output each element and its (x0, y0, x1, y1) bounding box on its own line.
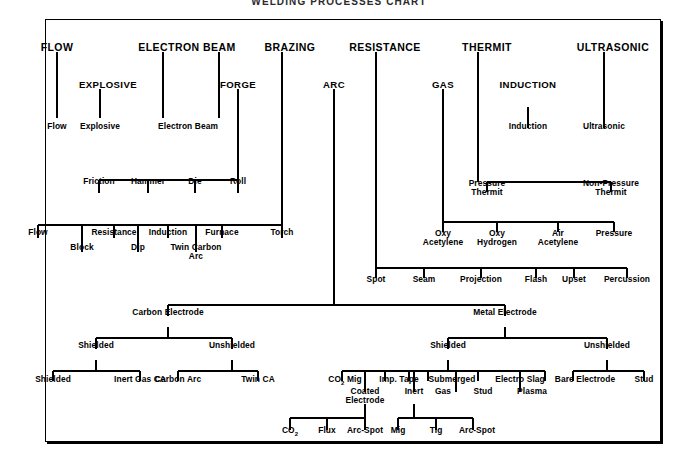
node-arc-spot-right: Arc-Spot (459, 426, 495, 435)
node-oxy-hydrogen: Oxy Hydrogen (477, 229, 517, 248)
node-gas-pressure: Pressure (596, 229, 633, 238)
node-electro-slag: Electro Slag (495, 375, 545, 384)
node-air-acetylene: Air Acetylene (538, 229, 578, 248)
node-upset: Upset (562, 275, 586, 284)
node-flow-leaf: Flow (47, 122, 66, 131)
node-imp-tape: Imp. Tape (379, 375, 418, 384)
node-projection: Projection (460, 275, 502, 284)
node-twin-ca: Twin CA (241, 375, 275, 384)
node-flow-header: FLOW (41, 42, 74, 53)
node-brazing-dip: Dip (131, 243, 145, 252)
node-co2-mig-base: CO (328, 374, 341, 384)
node-air-acetylene-line2: Acetylene (538, 237, 578, 247)
node-me-shielded: Shielded (430, 341, 466, 350)
node-flash: Flash (525, 275, 547, 284)
node-friction: Friction (83, 177, 115, 186)
node-co2-mig: CO2 Mig (328, 375, 361, 386)
node-forge-header: FORGE (220, 80, 256, 90)
node-bare-electrode: Bare Electrode (555, 375, 616, 384)
node-thermit-header: THERMIT (462, 42, 512, 53)
node-brazing-flow: Flow (28, 228, 47, 237)
node-percussion: Percussion (604, 275, 650, 284)
node-brazing-resistance: Resistance (91, 228, 136, 237)
node-pressure-thermit-line2: Thermit (471, 187, 502, 197)
node-brazing-block: Block (70, 243, 93, 252)
node-submerged: Submerged (429, 375, 476, 384)
node-flux: Flux (318, 426, 336, 435)
node-resistance-header: RESISTANCE (349, 42, 420, 53)
node-co2: CO2 (282, 426, 298, 437)
node-me-unshielded: Unshielded (584, 341, 630, 350)
node-hammer: Hammer (131, 177, 165, 186)
node-gas: Gas (435, 387, 451, 396)
node-induction-leaf: Induction (509, 122, 548, 131)
node-oxy-acetylene-line2: Acetylene (423, 237, 463, 247)
node-roll: Roll (230, 177, 246, 186)
node-unshielded-stud: Stud (634, 375, 653, 384)
node-non-pressure-thermit-line2: Thermit (595, 187, 626, 197)
node-carbon-arc: Carbon Arc (155, 375, 201, 384)
node-mig: Mig (391, 426, 406, 435)
node-ce-shielded-leaf: Shielded (35, 375, 71, 384)
welding-processes-chart: WELDING PROCESSES CHART (0, 0, 678, 474)
node-explosive-leaf: Explosive (80, 122, 120, 131)
node-coated-electrode-line2: Electrode (345, 396, 384, 405)
node-oxy-acetylene: Oxy Acetylene (423, 229, 463, 248)
chart-title: WELDING PROCESSES CHART (0, 0, 678, 7)
node-brazing-torch: Torch (270, 228, 293, 237)
node-explosive-header: EXPLOSIVE (79, 80, 137, 90)
node-seam: Seam (413, 275, 436, 284)
node-inert: Inert (405, 387, 424, 396)
node-metal-electrode: Metal Electrode (473, 308, 536, 317)
node-co2-base: CO (282, 425, 295, 435)
node-electron-beam-leaf: Electron Beam (158, 122, 218, 131)
node-gas-header: GAS (432, 80, 454, 90)
node-co2-subscript: 2 (295, 431, 298, 437)
node-co2-mig-tail: Mig (345, 374, 362, 384)
node-brazing-header: BRAZING (265, 42, 316, 53)
node-induction-header: INDUCTION (500, 80, 557, 90)
node-arc-header: ARC (323, 80, 345, 90)
node-ultrasonic-leaf: Ultrasonic (583, 122, 625, 131)
node-ce-shielded: Shielded (78, 341, 114, 350)
node-me-stud: Stud (473, 387, 492, 396)
node-brazing-induction: Induction (149, 228, 188, 237)
node-ultrasonic-header: ULTRASONIC (577, 42, 650, 53)
node-brazing-furnace: Furnace (205, 228, 238, 237)
node-pressure-thermit: Pressure Thermit (469, 179, 506, 198)
node-arc-spot-left: Arc-Spot (347, 426, 383, 435)
node-tig: Tig (430, 426, 443, 435)
node-oxy-hydrogen-line2: Hydrogen (477, 237, 517, 247)
node-ce-unshielded: Unshielded (209, 341, 255, 350)
node-non-pressure-thermit: Non-Pressure Thermit (583, 179, 639, 198)
node-plasma: Plasma (517, 387, 547, 396)
node-carbon-electrode: Carbon Electrode (132, 308, 203, 317)
node-electron-beam-header: ELECTRON BEAM (138, 42, 235, 53)
node-spot: Spot (366, 275, 385, 284)
node-brazing-twin-carbon-arc-line2: Arc (189, 252, 203, 261)
node-die: Die (188, 177, 201, 186)
